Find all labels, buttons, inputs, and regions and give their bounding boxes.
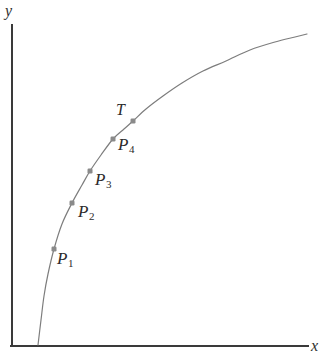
point-label-p3-sub: 3 [106, 178, 112, 190]
point-label-p1: P1 [57, 250, 73, 267]
point-label-p4-base: P [118, 135, 128, 154]
point-label-p4-sub: 4 [129, 143, 135, 155]
axes-group [11, 25, 308, 346]
point-label-p2-base: P [78, 202, 88, 221]
point-label-p3-base: P [95, 170, 105, 189]
point-label-t-base: T [116, 101, 125, 118]
y-axis-label: y [5, 3, 12, 19]
curve-path [38, 34, 307, 345]
x-axis-label: x [311, 338, 318, 354]
point-label-p4: P4 [118, 136, 134, 153]
marker-p1 [52, 247, 57, 252]
point-label-p2-sub: 2 [89, 210, 95, 222]
marker-p2 [70, 201, 75, 206]
point-label-p3: P3 [95, 171, 111, 188]
point-label-t: T [116, 102, 125, 118]
figure-canvas: y x T P4 P3 P2 P1 [0, 0, 330, 363]
marker-t [131, 119, 136, 124]
point-label-p2: P2 [78, 203, 94, 220]
marker-p4 [111, 137, 116, 142]
marker-p3 [88, 169, 93, 174]
point-label-p1-sub: 1 [68, 257, 74, 269]
plot-area [0, 0, 330, 363]
point-label-p1-base: P [57, 249, 67, 268]
